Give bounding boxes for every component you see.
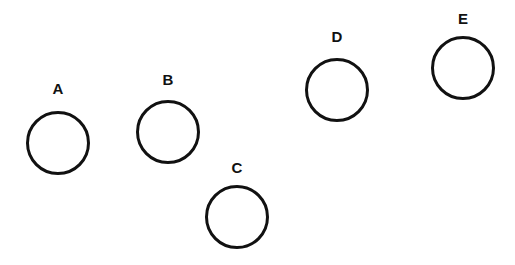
circle-d xyxy=(305,58,369,122)
circle-b xyxy=(136,100,200,164)
circle-c xyxy=(205,185,269,249)
circle-label-a: A xyxy=(43,81,73,97)
circle-label-b: B xyxy=(153,72,183,88)
circle-label-c: C xyxy=(222,160,252,176)
circle-a xyxy=(26,111,90,175)
circle-e xyxy=(431,36,495,100)
circle-label-e: E xyxy=(448,11,478,27)
circle-label-d: D xyxy=(322,29,352,45)
